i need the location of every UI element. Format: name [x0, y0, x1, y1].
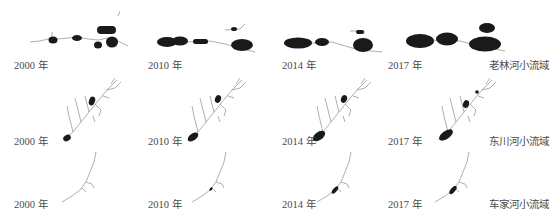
map-dongchuan-2000 — [55, 76, 125, 146]
map-dongchuan-2010 — [180, 76, 250, 146]
year-label: 2000 年 — [14, 196, 48, 211]
year-label: 2010 年 — [148, 57, 182, 72]
map-chejia-2010 — [190, 150, 235, 205]
year-label: 2000 年 — [14, 57, 48, 72]
basin-label-dongchuan: 东川河小流域 — [489, 133, 549, 148]
year-label: 2010 年 — [148, 196, 182, 211]
year-label: 2014 年 — [282, 196, 316, 211]
map-chejia-2000 — [60, 150, 105, 205]
map-chejia-2014 — [315, 150, 360, 205]
year-label: 2014 年 — [282, 57, 316, 72]
map-laolin-2014 — [282, 22, 387, 57]
year-label: 2017 年 — [388, 133, 422, 148]
map-chejia-2017 — [433, 150, 478, 205]
basin-label-laolin: 老林河小流域 — [489, 57, 549, 72]
basin-label-chejia: 车家河小流域 — [489, 196, 549, 211]
year-label: 2017 年 — [388, 196, 422, 211]
year-label: 2010 年 — [148, 133, 182, 148]
year-label: 2014 年 — [282, 133, 316, 148]
year-label: 2017 年 — [388, 57, 422, 72]
map-laolin-2010 — [155, 20, 260, 55]
map-laolin-2000 — [28, 8, 138, 53]
figure-caption-cutoff — [14, 212, 304, 215]
year-label: 2000 年 — [14, 133, 48, 148]
map-laolin-2017 — [405, 23, 520, 55]
